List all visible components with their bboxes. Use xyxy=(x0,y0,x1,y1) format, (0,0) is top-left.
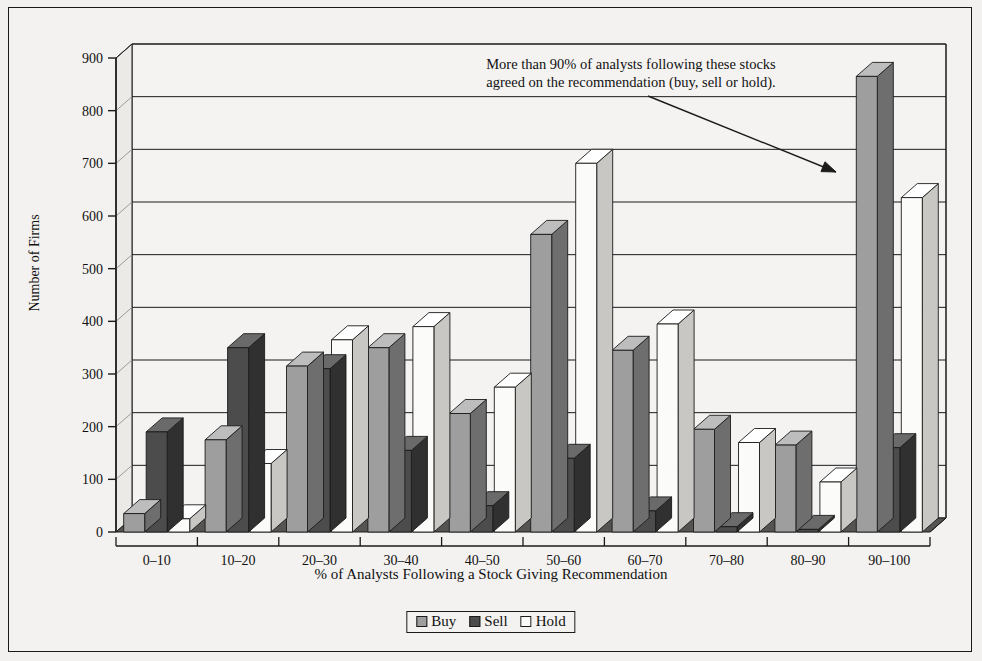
bar-buy-2 xyxy=(287,352,324,532)
y-tick-label: 500 xyxy=(82,262,103,277)
y-tick-label: 800 xyxy=(82,104,103,119)
y-tick-label: 600 xyxy=(82,209,103,224)
legend: Buy Sell Hold xyxy=(406,611,575,633)
bar-buy-7 xyxy=(694,415,731,532)
annotation-line-2: agreed on the recommendation (buy, sell … xyxy=(436,74,826,92)
legend-swatch-hold-icon xyxy=(521,616,532,627)
chart-svg: 01002003004005006007008009000–1010–2020–… xyxy=(0,0,982,661)
y-tick-label: 300 xyxy=(82,367,103,382)
y-tick-label: 700 xyxy=(82,156,103,171)
y-tick-label: 900 xyxy=(82,51,103,66)
legend-item-hold: Hold xyxy=(521,614,566,629)
legend-label-buy: Buy xyxy=(431,614,456,629)
bar-buy-5 xyxy=(531,220,568,532)
legend-swatch-buy-icon xyxy=(416,616,427,627)
x-axis-title: % of Analysts Following a Stock Giving R… xyxy=(0,566,982,583)
bar-buy-3 xyxy=(368,334,405,532)
y-tick-label: 100 xyxy=(82,472,103,487)
plot-area: 01002003004005006007008009000–1010–2020–… xyxy=(0,0,982,661)
bar-buy-6 xyxy=(612,336,649,532)
y-tick-label: 200 xyxy=(82,420,103,435)
bar-buy-4 xyxy=(449,400,486,533)
bar-buy-8 xyxy=(775,431,812,532)
bar-buy-9 xyxy=(856,62,893,532)
figure: Number of Firms 010020030040050060070080… xyxy=(0,0,982,661)
bar-buy-1 xyxy=(205,426,242,532)
legend-item-sell: Sell xyxy=(469,614,507,629)
y-tick-label: 400 xyxy=(82,314,103,329)
legend-label-hold: Hold xyxy=(536,614,566,629)
legend-item-buy: Buy xyxy=(416,614,456,629)
y-tick-label: 0 xyxy=(96,525,103,540)
legend-swatch-sell-icon xyxy=(469,616,480,627)
chart-annotation: More than 90% of analysts following thes… xyxy=(436,56,826,91)
annotation-line-1: More than 90% of analysts following thes… xyxy=(436,56,826,74)
legend-label-sell: Sell xyxy=(484,614,507,629)
